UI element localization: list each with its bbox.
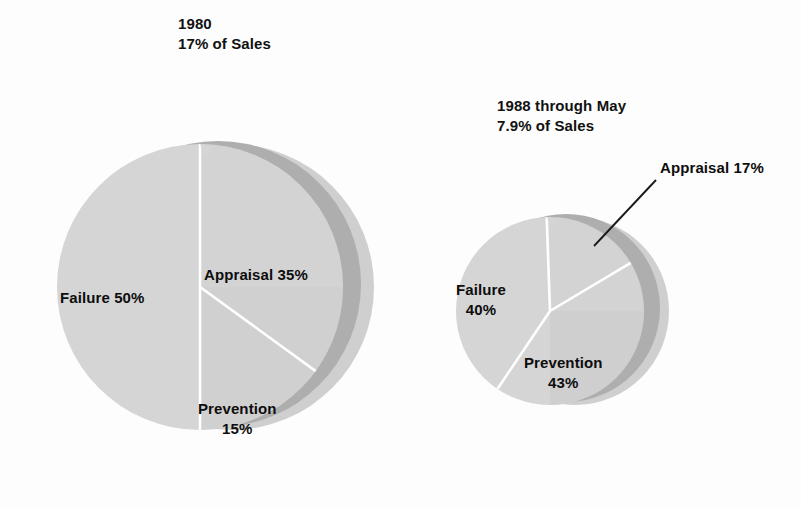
slice-label-right-appraisal: Appraisal 17% bbox=[660, 158, 764, 177]
slice-label-right-failure: Failure 40% bbox=[456, 280, 506, 320]
slice-label-left-prevention: Prevention 15% bbox=[198, 399, 277, 439]
chart-title-left: 1980 17% of Sales bbox=[178, 14, 271, 54]
chart-title-right-line1: 1988 through May bbox=[497, 96, 626, 116]
slice-label-right-failure-line1: Failure bbox=[456, 280, 506, 300]
slice-label-left-failure: Failure 50% bbox=[60, 288, 144, 307]
chart-title-right: 1988 through May 7.9% of Sales bbox=[497, 96, 626, 136]
figure-canvas: 1980 17% of Sales 1988 through May 7.9% … bbox=[0, 0, 801, 508]
slice-label-right-prevention-line1: Prevention bbox=[524, 353, 603, 373]
slice-label-right-prevention-line2: 43% bbox=[524, 373, 603, 393]
pie-charts-graphic bbox=[0, 0, 801, 508]
chart-title-right-line2: 7.9% of Sales bbox=[497, 116, 626, 136]
slice-label-left-prevention-line2: 15% bbox=[198, 419, 277, 439]
chart-title-left-line1: 1980 bbox=[178, 14, 271, 34]
slice-label-left-appraisal: Appraisal 35% bbox=[204, 265, 308, 284]
slice-label-left-prevention-line1: Prevention bbox=[198, 399, 277, 419]
slice-label-right-prevention: Prevention 43% bbox=[524, 353, 603, 393]
chart-title-left-line2: 17% of Sales bbox=[178, 34, 271, 54]
slice-label-right-failure-line2: 40% bbox=[456, 300, 506, 320]
